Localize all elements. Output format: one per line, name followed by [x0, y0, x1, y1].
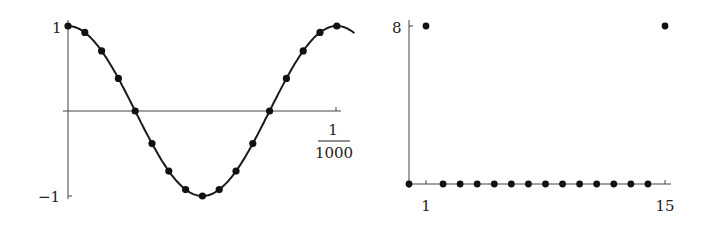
x-label-left: 1: [421, 197, 431, 215]
sample-point: [266, 107, 273, 114]
spectrum-point: [406, 181, 413, 188]
spectrum-point: [645, 181, 652, 188]
cosine-sample-chart: 1 −1 1 1000: [0, 0, 360, 232]
sample-point: [199, 192, 206, 199]
sample-point: [316, 29, 323, 36]
sample-point: [148, 140, 155, 147]
spectrum-point: [440, 181, 447, 188]
sample-point: [300, 47, 307, 54]
spectrum-plot-svg: 8 1 15: [360, 0, 707, 232]
sample-point: [232, 167, 239, 174]
sample-point: [249, 140, 256, 147]
spectrum-point: [474, 181, 481, 188]
x-label-right: 15: [655, 197, 674, 215]
spectrum-point: [508, 181, 515, 188]
spectrum-point: [627, 181, 634, 188]
spectrum-points: [406, 23, 669, 188]
spectrum-point: [542, 181, 549, 188]
sample-point: [81, 29, 88, 36]
spectrum-point: [423, 23, 430, 30]
spectrum-point: [593, 181, 600, 188]
sample-point: [98, 47, 105, 54]
sample-point: [64, 22, 71, 29]
spectrum-point: [559, 181, 566, 188]
spectrum-point: [491, 181, 498, 188]
sample-point: [333, 22, 340, 29]
sample-point: [283, 75, 290, 82]
sample-point: [165, 167, 172, 174]
y-label-bottom: −1: [38, 188, 60, 206]
spectrum-chart: 8 1 15: [360, 0, 707, 232]
spectrum-point: [576, 181, 583, 188]
x-label-numerator: 1: [328, 121, 338, 139]
sample-point: [115, 75, 122, 82]
spectrum-point: [457, 181, 464, 188]
x-label-denominator: 1000: [315, 144, 353, 162]
spectrum-point: [610, 181, 617, 188]
y-label-top: 1: [52, 19, 62, 37]
sample-point: [132, 107, 139, 114]
y-label-top: 8: [392, 19, 402, 37]
spectrum-point: [525, 181, 532, 188]
sample-point: [216, 186, 223, 193]
cosine-plot-svg: 1 −1 1 1000: [0, 0, 360, 232]
sample-point: [182, 186, 189, 193]
spectrum-point: [662, 23, 669, 30]
